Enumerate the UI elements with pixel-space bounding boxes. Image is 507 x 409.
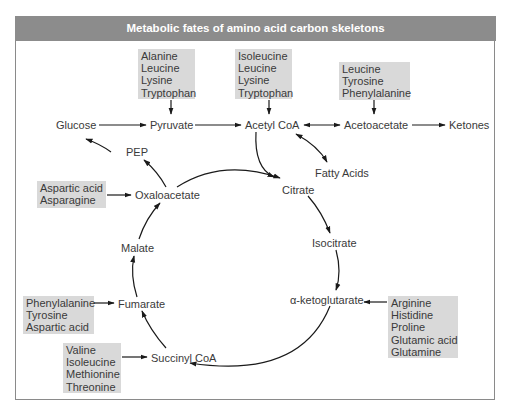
pathway-arrows — [0, 0, 507, 409]
